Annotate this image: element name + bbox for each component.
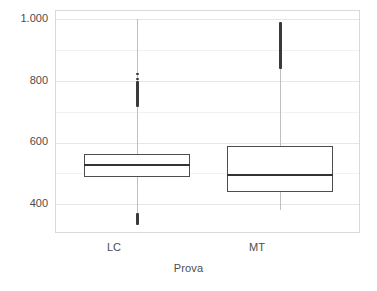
boxplot-chart: Nota 1.000 800 600 400: [0, 0, 377, 291]
x-tick-label-lc: LC: [84, 242, 144, 253]
box-group-lc[interactable]: [84, 11, 190, 232]
y-tick-label-800: 800: [2, 75, 48, 86]
x-tick-label-mt: MT: [227, 242, 287, 253]
outlier-dot-lc-1: [136, 78, 139, 80]
outlier-cluster-upper-lc: [136, 81, 139, 107]
box-mt: [227, 146, 333, 192]
median-lc: [84, 164, 190, 166]
median-mt: [227, 174, 333, 176]
outlier-cluster-lower-lc: [136, 213, 139, 225]
whisker-lower-mt: [280, 192, 281, 210]
outlier-cluster-upper-mt: [279, 22, 282, 69]
outlier-dot-lc-2: [136, 73, 139, 75]
box-group-mt[interactable]: [227, 11, 333, 232]
plot-panel: [55, 10, 360, 233]
y-tick-label-600: 600: [2, 136, 48, 147]
y-tick-label-400: 400: [2, 198, 48, 209]
y-tick-label-1000: 1.000: [2, 13, 48, 24]
x-axis-title: Prova: [0, 262, 377, 274]
